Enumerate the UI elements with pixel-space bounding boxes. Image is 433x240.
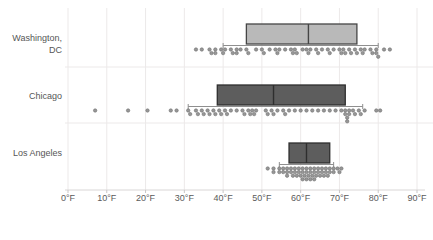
data-point-los-angeles[interactable] [316,170,319,173]
data-point-los-angeles[interactable] [322,174,325,177]
data-point-los-angeles[interactable] [299,174,302,177]
data-point-chicago[interactable] [241,109,244,112]
data-point-los-angeles[interactable] [316,167,319,170]
data-point-washington-dc[interactable] [338,48,341,51]
data-point-los-angeles[interactable] [340,167,343,170]
data-point-chicago[interactable] [214,112,217,115]
data-point-chicago[interactable] [212,109,215,112]
data-point-washington-dc[interactable] [361,51,364,54]
data-point-chicago[interactable] [126,109,129,112]
data-point-chicago[interactable] [378,109,381,112]
data-point-los-angeles[interactable] [318,174,321,177]
data-point-washington-dc[interactable] [375,51,378,54]
data-point-washington-dc[interactable] [328,51,331,54]
data-point-washington-dc[interactable] [214,51,217,54]
data-point-chicago[interactable] [200,109,203,112]
data-point-washington-dc[interactable] [291,51,294,54]
data-point-chicago[interactable] [305,109,308,112]
data-point-chicago[interactable] [188,112,191,115]
data-point-los-angeles[interactable] [324,170,327,173]
data-point-los-angeles[interactable] [285,167,288,170]
data-point-los-angeles[interactable] [282,167,285,170]
data-point-washington-dc[interactable] [377,55,380,58]
data-point-washington-dc[interactable] [268,48,271,51]
data-point-chicago[interactable] [266,112,269,115]
data-point-los-angeles[interactable] [320,167,323,170]
data-point-chicago[interactable] [322,109,325,112]
data-point-washington-dc[interactable] [344,51,347,54]
data-point-washington-dc[interactable] [289,48,292,51]
data-point-chicago[interactable] [347,109,350,112]
data-point-chicago[interactable] [344,109,347,112]
data-point-washington-dc[interactable] [194,48,197,51]
data-point-chicago[interactable] [359,112,362,115]
data-point-washington-dc[interactable] [355,51,358,54]
data-point-washington-dc[interactable] [293,48,296,51]
data-point-washington-dc[interactable] [371,51,374,54]
data-point-chicago[interactable] [175,109,178,112]
data-point-los-angeles[interactable] [313,170,316,173]
data-point-los-angeles[interactable] [309,178,312,181]
data-point-los-angeles[interactable] [272,170,275,173]
data-point-washington-dc[interactable] [260,48,263,51]
data-point-los-angeles[interactable] [266,167,269,170]
data-point-chicago[interactable] [218,109,221,112]
data-point-chicago[interactable] [206,109,209,112]
data-point-washington-dc[interactable] [219,48,222,51]
data-point-chicago[interactable] [243,112,246,115]
data-point-washington-dc[interactable] [326,48,329,51]
box-los-angeles[interactable] [289,143,330,163]
data-point-washington-dc[interactable] [278,48,281,51]
data-point-washington-dc[interactable] [314,48,317,51]
data-point-washington-dc[interactable] [307,51,310,54]
data-point-chicago[interactable] [252,112,255,115]
data-point-chicago[interactable] [247,109,250,112]
data-point-washington-dc[interactable] [262,51,265,54]
data-point-los-angeles[interactable] [278,167,281,170]
data-point-washington-dc[interactable] [305,48,308,51]
data-point-los-angeles[interactable] [336,167,339,170]
data-point-chicago[interactable] [146,109,149,112]
data-point-washington-dc[interactable] [332,48,335,51]
data-point-chicago[interactable] [264,109,267,112]
data-point-los-angeles[interactable] [328,170,331,173]
data-point-chicago[interactable] [351,109,354,112]
data-point-chicago[interactable] [346,116,349,119]
data-point-washington-dc[interactable] [309,48,312,51]
data-point-los-angeles[interactable] [305,167,308,170]
data-point-washington-dc[interactable] [229,48,232,51]
data-point-chicago[interactable] [334,109,337,112]
data-point-chicago[interactable] [194,109,197,112]
data-point-chicago[interactable] [299,109,302,112]
data-point-washington-dc[interactable] [274,48,277,51]
data-point-chicago[interactable] [357,109,360,112]
data-point-washington-dc[interactable] [388,48,391,51]
data-point-washington-dc[interactable] [342,48,345,51]
data-point-chicago[interactable] [187,109,190,112]
data-point-chicago[interactable] [353,112,356,115]
data-point-los-angeles[interactable] [282,170,285,173]
data-point-los-angeles[interactable] [301,170,304,173]
data-point-washington-dc[interactable] [316,51,319,54]
data-point-chicago[interactable] [347,112,350,115]
data-point-washington-dc[interactable] [235,51,238,54]
data-point-washington-dc[interactable] [283,48,286,51]
data-point-chicago[interactable] [344,112,347,115]
data-point-los-angeles[interactable] [291,174,294,177]
data-point-chicago[interactable] [293,109,296,112]
data-point-washington-dc[interactable] [369,48,372,51]
data-point-chicago[interactable] [196,112,199,115]
data-point-washington-dc[interactable] [239,48,242,51]
data-point-chicago[interactable] [272,112,275,115]
data-point-chicago[interactable] [340,109,343,112]
data-point-washington-dc[interactable] [347,48,350,51]
data-point-los-angeles[interactable] [297,170,300,173]
data-point-los-angeles[interactable] [313,178,316,181]
data-point-washington-dc[interactable] [223,48,226,51]
data-point-los-angeles[interactable] [278,170,281,173]
data-point-chicago[interactable] [276,109,279,112]
data-point-los-angeles[interactable] [326,174,329,177]
data-point-chicago[interactable] [287,109,290,112]
data-point-los-angeles[interactable] [338,170,341,173]
data-point-chicago[interactable] [270,109,273,112]
